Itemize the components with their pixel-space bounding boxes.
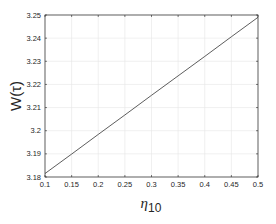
line-chart: 0.10.150.20.250.30.350.40.450.5 3.183.19… bbox=[0, 0, 276, 224]
x-tick-label: 0.5 bbox=[253, 180, 263, 189]
grid-lines bbox=[45, 15, 258, 177]
x-axis-label-subscript: 10 bbox=[148, 201, 162, 215]
x-tick-label: 0.35 bbox=[171, 180, 186, 189]
y-axis-label: W(τ) bbox=[7, 81, 24, 111]
y-tick-label: 3.22 bbox=[26, 80, 41, 89]
x-tick-label: 0.4 bbox=[200, 180, 210, 189]
y-tick-label: 3.21 bbox=[26, 103, 41, 112]
x-tick-label: 0.1 bbox=[40, 180, 50, 189]
y-tick-label: 3.2 bbox=[31, 126, 41, 135]
y-axis-ticks: 3.183.193.23.213.223.233.243.25 bbox=[26, 11, 258, 182]
x-tick-label: 0.3 bbox=[146, 180, 156, 189]
y-tick-label: 3.23 bbox=[26, 57, 41, 66]
y-tick-label: 3.25 bbox=[26, 11, 41, 20]
x-tick-label: 0.25 bbox=[118, 180, 133, 189]
y-tick-label: 3.19 bbox=[26, 149, 41, 158]
x-tick-label: 0.45 bbox=[224, 180, 239, 189]
y-tick-label: 3.24 bbox=[26, 34, 41, 43]
x-axis-label-base: η bbox=[141, 195, 148, 211]
x-axis-label: η10 bbox=[141, 195, 162, 215]
x-tick-label: 0.15 bbox=[64, 180, 79, 189]
y-tick-label: 3.18 bbox=[26, 173, 41, 182]
x-tick-label: 0.2 bbox=[93, 180, 103, 189]
